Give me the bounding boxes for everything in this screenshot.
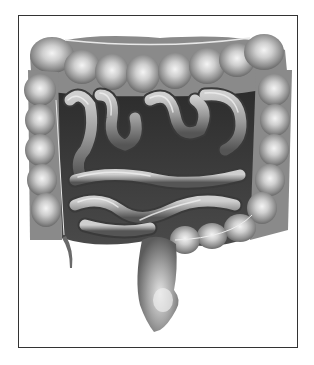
transverse-colon [30,34,288,96]
rectum [137,237,178,332]
ascending-colon [24,70,64,240]
intestines-illustration [0,0,314,365]
appendix [62,236,72,268]
